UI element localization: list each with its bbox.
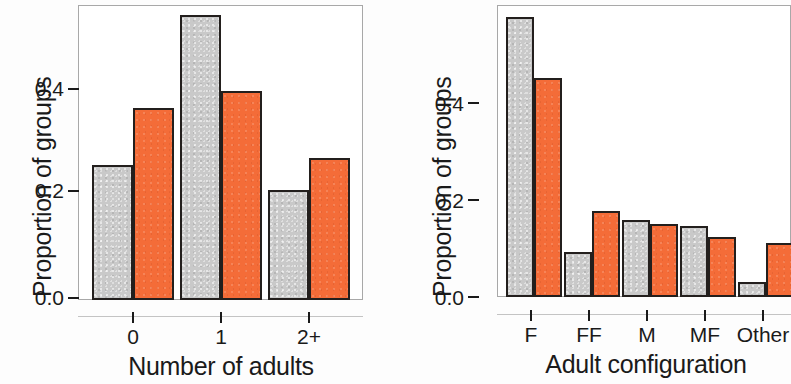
panel-left-number-of-adults: Proportion of groups 0.0 0.2 0.4 0 1 2+ … (0, 0, 396, 384)
bar-right-MF-B (708, 237, 736, 297)
figure-grouped-bar-charts: Proportion of groups 0.0 0.2 0.4 0 1 2+ … (0, 0, 791, 384)
x-tick-label-right-4: Other (727, 323, 791, 347)
x-axis-title-left: Number of adults (51, 352, 391, 381)
x-tick-label-left-0: 0 (93, 325, 173, 349)
bar-right-FF-B (592, 211, 620, 297)
x-tick-mark-right-3 (704, 310, 706, 321)
x-axis-title-right: Adult configuration (481, 350, 791, 379)
y-tick-label-left-0: 0.0 (6, 286, 64, 310)
x-tick-mark-right-4 (762, 310, 764, 321)
y-tick-label-right-0: 0.0 (406, 286, 464, 310)
x-tick-mark-left-2 (308, 312, 310, 323)
bar-right-Other-B (766, 243, 791, 297)
x-tick-mark-left-1 (220, 312, 222, 323)
bar-right-F-B (534, 78, 562, 297)
bar-left-2-B (309, 158, 350, 300)
bar-right-FF-A (564, 252, 592, 297)
bar-right-Other-A (738, 282, 766, 297)
y-tick-mark-right-1 (468, 199, 479, 201)
y-tick-mark-right-2 (468, 102, 479, 104)
y-tick-label-right-2: 0.4 (406, 92, 464, 116)
x-tick-mark-right-0 (530, 310, 532, 321)
bar-right-M-A (622, 220, 650, 297)
y-tick-mark-left-1 (68, 190, 79, 192)
y-tick-label-left-1: 0.2 (6, 179, 64, 203)
bar-left-0-A (92, 165, 133, 300)
bar-right-F-A (506, 17, 534, 297)
x-tick-mark-left-0 (132, 312, 134, 323)
bar-left-1-A (180, 15, 221, 300)
bar-right-MF-A (680, 226, 708, 297)
x-tick-mark-right-2 (646, 310, 648, 321)
y-tick-mark-left-0 (68, 297, 79, 299)
y-tick-mark-left-2 (68, 88, 79, 90)
y-tick-label-left-2: 0.4 (6, 77, 64, 101)
bar-left-0-B (133, 108, 174, 300)
y-tick-label-right-1: 0.2 (406, 189, 464, 213)
x-tick-label-left-1: 1 (181, 325, 261, 349)
bar-left-1-B (221, 91, 262, 300)
x-axis-line-right (497, 314, 791, 315)
y-tick-mark-right-0 (468, 296, 479, 298)
bar-right-M-B (650, 224, 678, 297)
bar-left-2-A (268, 190, 309, 300)
panel-right-adult-configuration: Proportion of groups 0.0 0.2 0.4 F FF M … (396, 0, 791, 384)
x-tick-mark-right-1 (588, 310, 590, 321)
x-tick-label-left-2: 2+ (269, 325, 349, 349)
